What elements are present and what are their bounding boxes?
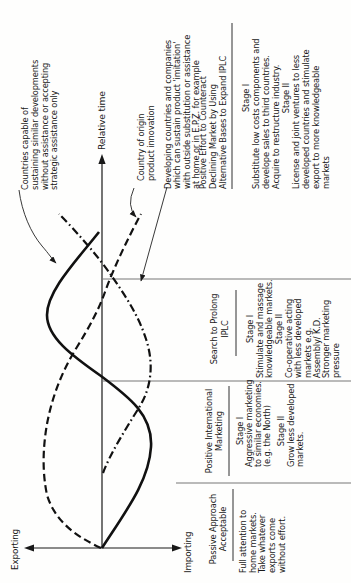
phase-passive-body-line: exports come <box>268 518 277 573</box>
callout-countries-capable-line: Countries capable of <box>21 107 30 190</box>
exporting-arrowhead <box>24 544 34 551</box>
phase-search-header: Search to Prolong <box>210 282 219 376</box>
phase-passive-body-line: Take whatever <box>258 515 267 573</box>
phase-passive-body-line: without effort. <box>278 516 287 573</box>
phase-expand-header: Alternative Bases to Expand IPLC <box>219 56 228 189</box>
relative-time-label: Relative time <box>97 91 106 150</box>
phase-expand-stage2-line: export to more knowledgeable <box>312 66 321 189</box>
phase-expand-stage2-line: markets <box>322 156 331 189</box>
phase-expand-stage1-line: develope sales to third countries. <box>262 55 271 189</box>
phase-expand-header: Positive Effort to Counteract <box>199 76 208 189</box>
phase-expand-stage1-line: Substitute low costs components and <box>252 39 261 189</box>
phase-pim-stage1-line: (e.g. the North) <box>263 405 272 467</box>
phase-search-stage1-line: knowledgeable markets. <box>265 280 274 378</box>
iplc-diagram-page: Exporting Importing Relative time Countr… <box>0 0 351 583</box>
phase-search-stage2-line: pressure <box>332 343 341 378</box>
phase-passive-header: Acceptable <box>219 485 228 573</box>
phase-passive-body-line: Full attention to <box>239 510 248 573</box>
phase-expand-stage1-line: Acquire to restructure industry. <box>272 65 281 189</box>
exporting-label: Exporting <box>11 529 20 570</box>
phase-pim-header: Marketing <box>215 382 224 480</box>
importing-arrowhead <box>172 544 182 551</box>
phase-search-header: IPLC <box>221 282 230 376</box>
phase-expand-stage2-line: developed countries and stimulate <box>302 50 311 190</box>
callout-countries-capable-line: strategic assistance only <box>50 91 59 190</box>
time-axis-arrowhead <box>98 154 105 164</box>
country-origin-arrow <box>130 188 136 217</box>
phase-search-stage1-label: Stage I <box>246 282 255 376</box>
countries-capable-arrow <box>19 190 56 263</box>
phase-pim-stage2-line: markets. <box>296 432 305 467</box>
phase-expand-header: Declining Market by Using <box>209 84 218 189</box>
phase-expand-stage1-label: Stage I <box>242 7 251 189</box>
phase-expand-stage2-line: License and joint ventures to less <box>292 55 301 189</box>
callout-country-origin-line: Country of origin <box>137 114 146 181</box>
phase-pim-header: Positive International <box>205 382 214 480</box>
developing-countries-curve <box>59 214 151 473</box>
phase-search-stage2-line: with less developed <box>294 299 303 379</box>
phase-pim-stage2-label: Stage II <box>277 382 286 480</box>
phase-search-stage2-label: Stage II <box>275 282 284 376</box>
callout-countries-capable-line: sustaining similar developments <box>31 60 40 190</box>
phase-search-stage2-line: Stronger marketing <box>322 300 331 378</box>
importing-label: Importing <box>184 532 193 573</box>
phase-expand-stage2-label: Stage II <box>282 7 291 189</box>
developing-countries-arrow <box>141 187 167 281</box>
callout-developing-line: which can sustain product 'imitation' <box>173 42 182 189</box>
phase-passive-header: Passive Approach <box>209 485 218 573</box>
callout-country-origin-line: product innovation <box>147 105 156 181</box>
iplc-diagram-rotated-canvas: Exporting Importing Relative time Countr… <box>0 0 351 583</box>
